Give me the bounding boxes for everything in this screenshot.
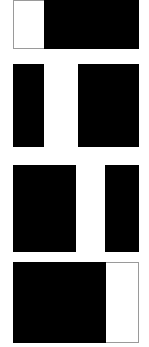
panel-3 (13, 165, 139, 252)
panel-3-band-black-right (105, 165, 139, 252)
panel-2-band-black-right (78, 64, 139, 147)
panel-1 (13, 0, 139, 49)
panel-4 (13, 262, 139, 343)
panel-1-band-white (13, 0, 44, 49)
panel-4-band-black (13, 262, 106, 343)
panel-2-band-white (44, 64, 78, 147)
panel-2-band-black-left (13, 64, 44, 147)
panel-1-band-black (44, 0, 139, 49)
panel-stack (0, 0, 149, 347)
panel-3-band-white (76, 165, 105, 252)
panel-3-band-black-left (13, 165, 76, 252)
panel-4-band-white (106, 262, 139, 343)
panel-2 (13, 64, 139, 147)
